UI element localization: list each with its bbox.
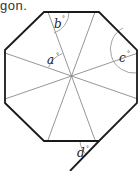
degree-symbol-c: °: [127, 49, 130, 56]
angle-label-c: c: [119, 51, 126, 65]
angle-label-b: b: [54, 17, 62, 31]
angle-label-a: a: [47, 53, 54, 67]
degree-symbol-d: °: [86, 144, 89, 151]
degree-symbol-a: °: [56, 51, 59, 58]
angle-label-d: d: [77, 146, 85, 160]
degree-symbol-b: °: [62, 14, 65, 21]
octagon-diagram: b ° a ° c ° d °: [0, 0, 139, 171]
